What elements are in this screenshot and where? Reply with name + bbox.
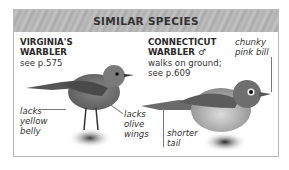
- panel-header: SIMILAR SPECIES: [14, 10, 278, 32]
- leader-line-bill: [271, 57, 272, 92]
- annotation-lacks-olive-wings: lacks olive wings: [124, 109, 149, 139]
- connecticut-warbler-name: CONNECTICUT WARBLER ♂: [148, 37, 216, 57]
- annotation-lacks-yellow-belly: lacks yellow belly: [20, 106, 47, 136]
- leader-line-tail: [163, 107, 164, 147]
- connecticut-warbler-illustration: [139, 72, 279, 154]
- annotation-chunky-pink-bill: chunky pink bill: [235, 37, 269, 57]
- virginias-warbler-name: VIRGINIA'S WARBLER: [20, 37, 73, 57]
- annotation-shorter-tail: shorter tail: [167, 128, 198, 148]
- connecticut-warbler-note: walks on ground; see p.609: [148, 58, 222, 78]
- panel-title: SIMILAR SPECIES: [93, 15, 199, 27]
- leader-line-belly: [42, 109, 66, 110]
- similar-species-panel: SIMILAR SPECIES: [13, 9, 279, 157]
- virginias-warbler-page-ref: see p.575: [20, 58, 62, 68]
- male-symbol-icon: ♂: [198, 47, 206, 57]
